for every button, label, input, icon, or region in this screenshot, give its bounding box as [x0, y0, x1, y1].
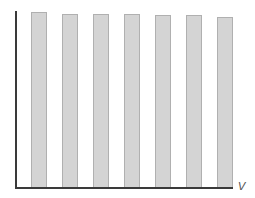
bar-4: [124, 14, 140, 187]
bar-2: [62, 14, 78, 187]
x-axis: [15, 187, 233, 189]
bar-1: [31, 12, 47, 187]
bar-7: [217, 17, 233, 187]
bar-6: [186, 15, 202, 187]
bar-3: [93, 14, 109, 187]
bar-chart: V: [0, 0, 255, 198]
y-axis: [15, 11, 17, 189]
bar-5: [155, 15, 171, 187]
x-axis-label: V: [238, 180, 246, 193]
